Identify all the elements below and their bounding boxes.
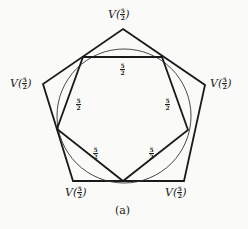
vertex-label-bottom-right: V(52) xyxy=(165,186,187,199)
edge-label-top: 52 xyxy=(120,59,125,78)
vertex-label-right: V(52) xyxy=(210,77,232,90)
edge-label-right: 52 xyxy=(165,94,170,113)
pentagon-diagram xyxy=(0,0,248,229)
figure-caption: (a) xyxy=(115,204,130,217)
vertex-label-top: V(52) xyxy=(108,8,130,21)
edge-label-left: 52 xyxy=(76,94,81,113)
outer-pentagon xyxy=(43,29,205,181)
edge-label-bottom-left: 52 xyxy=(93,143,98,162)
vertex-label-bottom-left: V(52) xyxy=(65,186,87,199)
edge-label-bottom-right: 52 xyxy=(149,143,154,162)
vertex-label-left: V(52) xyxy=(10,77,32,90)
